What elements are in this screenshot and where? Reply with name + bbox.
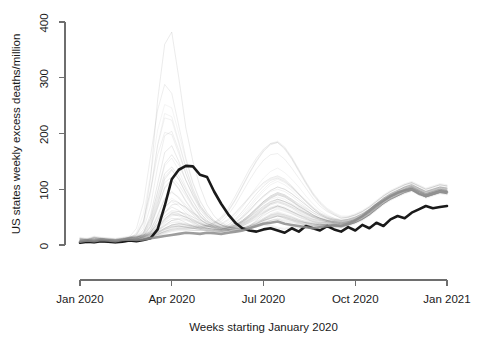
x-tick-label-4: Jan 2021 <box>423 293 470 305</box>
y-tick-label-0: 0 <box>38 243 50 249</box>
x-tick-label-3: Oct 2020 <box>332 293 379 305</box>
axis-labels-group: 0100200300400Jan 2020Apr 2020Jul 2020Oct… <box>10 13 471 333</box>
y-tick-label-100: 100 <box>38 181 50 200</box>
series-state-48 <box>80 142 447 242</box>
y-tick-label-200: 200 <box>38 125 50 144</box>
cut-off-caption-strip <box>0 341 482 352</box>
x-tick-label-2: Jul 2020 <box>242 293 285 305</box>
series-highlight-dark <box>80 166 447 243</box>
y-tick-label-400: 400 <box>38 13 50 32</box>
x-tick-label-1: Apr 2020 <box>148 293 195 305</box>
chart-canvas: 0100200300400Jan 2020Apr 2020Jul 2020Oct… <box>0 0 482 352</box>
state-lines-group <box>80 32 447 244</box>
axes-group <box>59 22 447 286</box>
y-tick-label-300: 300 <box>38 69 50 88</box>
highlight-lines-group <box>80 166 447 243</box>
series-state-26 <box>80 170 447 242</box>
excess-deaths-figure: 0100200300400Jan 2020Apr 2020Jul 2020Oct… <box>0 0 482 352</box>
x-axis-title: Weeks starting January 2020 <box>189 321 338 333</box>
x-tick-label-0: Jan 2020 <box>56 293 103 305</box>
y-axis-title: US states weekly excess deaths/million <box>10 34 22 235</box>
